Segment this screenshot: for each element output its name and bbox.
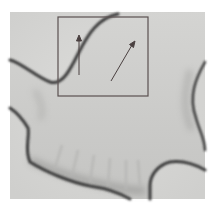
micrograph-figure (0, 0, 215, 211)
